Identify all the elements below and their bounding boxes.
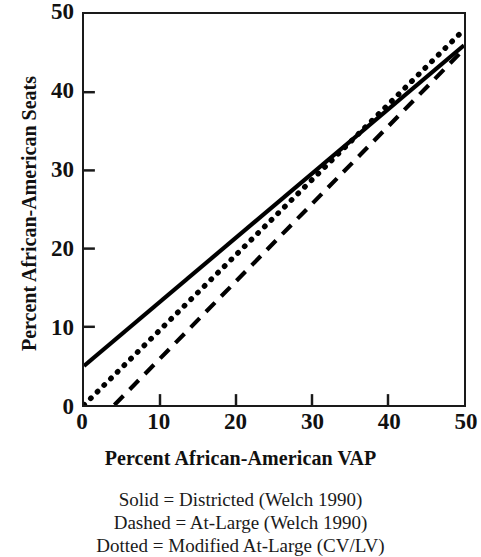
x-tick-label: 50 xyxy=(436,410,481,433)
legend-line-dotted: Dotted = Modified At-Large (CV/LV) xyxy=(0,534,481,557)
x-tick-label: 40 xyxy=(359,410,419,433)
legend-line-solid: Solid = Districted (Welch 1990) xyxy=(0,488,481,511)
x-tick-label: 20 xyxy=(206,410,266,433)
x-axis-title: Percent African-American VAP xyxy=(0,447,481,470)
x-tick-label: 30 xyxy=(282,410,342,433)
legend-caption: Solid = Districted (Welch 1990) Dashed =… xyxy=(0,488,481,557)
x-tick-label: 10 xyxy=(129,410,189,433)
legend-line-dashed: Dashed = At-Large (Welch 1990) xyxy=(0,511,481,534)
y-axis-title: Percent African-American Seats xyxy=(18,19,41,409)
x-tick-label: 0 xyxy=(52,410,112,433)
